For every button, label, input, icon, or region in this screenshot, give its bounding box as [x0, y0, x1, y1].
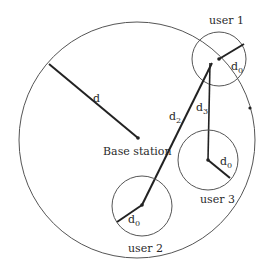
user1-dot [217, 57, 221, 61]
user1-label: user 1 [209, 14, 244, 27]
user1-d0-label: d0 [231, 60, 243, 75]
base-station-label: Base station [103, 145, 172, 158]
link-d2-label: d2 [169, 110, 181, 125]
edge-dot [248, 106, 251, 109]
user2-d0-label: d0 [128, 213, 140, 228]
link-d2-line [142, 63, 212, 205]
user2-label: user 2 [128, 242, 163, 255]
user2-dot [140, 203, 144, 207]
link-d3-label: d3 [196, 101, 208, 116]
user1-d0-line [219, 44, 244, 59]
cell-radius-label: d [93, 92, 100, 105]
cell-diagram: d Base station d0 user 1 d2 d3 d0 user 3… [0, 0, 268, 274]
user3-d0-label: d0 [220, 155, 232, 170]
base-station-dot [136, 136, 140, 140]
link-d3-line [208, 63, 210, 160]
user3-label: user 3 [200, 193, 235, 206]
user3-dot [206, 158, 210, 162]
